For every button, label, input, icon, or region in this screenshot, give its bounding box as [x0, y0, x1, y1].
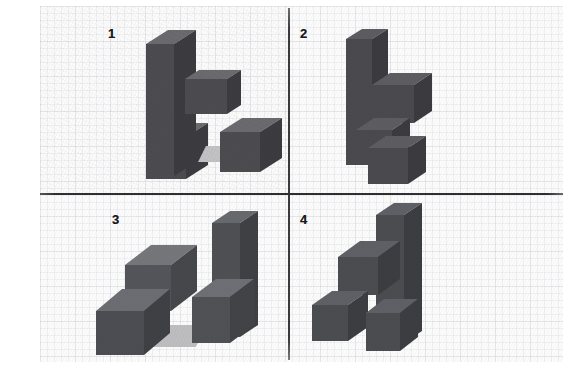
panel-3[interactable]: 3 — [40, 195, 288, 362]
figure-sheet: 1 — [0, 0, 586, 368]
panel-1[interactable]: 1 — [40, 6, 288, 193]
panel-3-grain — [40, 195, 288, 362]
panel-1-floating-cube — [185, 70, 241, 120]
panel-2[interactable]: 2 — [290, 6, 563, 193]
panel-4[interactable]: 4 — [290, 195, 563, 362]
panel-4-grain — [290, 195, 563, 362]
panel-1-detached-cube — [220, 118, 282, 180]
panel-1-label: 1 — [108, 27, 115, 40]
panel-2-grain — [290, 6, 563, 193]
